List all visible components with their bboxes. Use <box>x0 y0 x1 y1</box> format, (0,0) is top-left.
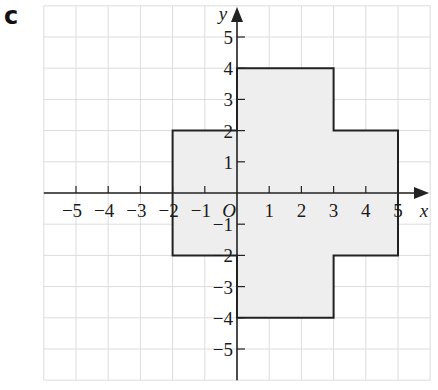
coordinate-plane: −5−4−3−2−11234554321−1−2−3−4−5Oxy <box>0 0 438 390</box>
y-tick-label: −4 <box>213 308 234 329</box>
x-axis-label: x <box>419 200 429 221</box>
x-tick-label: −5 <box>62 200 82 221</box>
x-tick-label: −1 <box>191 200 211 221</box>
x-axis-arrow-icon <box>414 187 429 199</box>
y-tick-label: 5 <box>224 27 234 48</box>
x-tick-label: −4 <box>94 200 115 221</box>
x-tick-label: 4 <box>361 200 371 221</box>
y-tick-label: −3 <box>213 277 233 298</box>
y-axis-label: y <box>217 3 228 24</box>
x-tick-label: 3 <box>329 200 339 221</box>
y-tick-label: 1 <box>224 152 234 173</box>
y-tick-label: 3 <box>224 89 234 110</box>
x-tick-label: −3 <box>126 200 146 221</box>
y-tick-label: 4 <box>224 58 234 79</box>
axes <box>44 7 429 380</box>
y-tick-label: −2 <box>213 245 233 266</box>
origin-label: O <box>222 200 236 221</box>
y-axis-arrow-icon <box>231 7 243 22</box>
y-tick-label: 2 <box>224 121 234 142</box>
x-tick-label: 2 <box>297 200 307 221</box>
y-tick-label: −5 <box>213 339 233 360</box>
x-tick-label: 1 <box>264 200 274 221</box>
coordinate-diagram: c −5−4−3−2−11234554321−1−2−3−4−5Oxy <box>0 0 438 390</box>
x-tick-label: −2 <box>158 200 178 221</box>
x-tick-label: 5 <box>393 200 403 221</box>
